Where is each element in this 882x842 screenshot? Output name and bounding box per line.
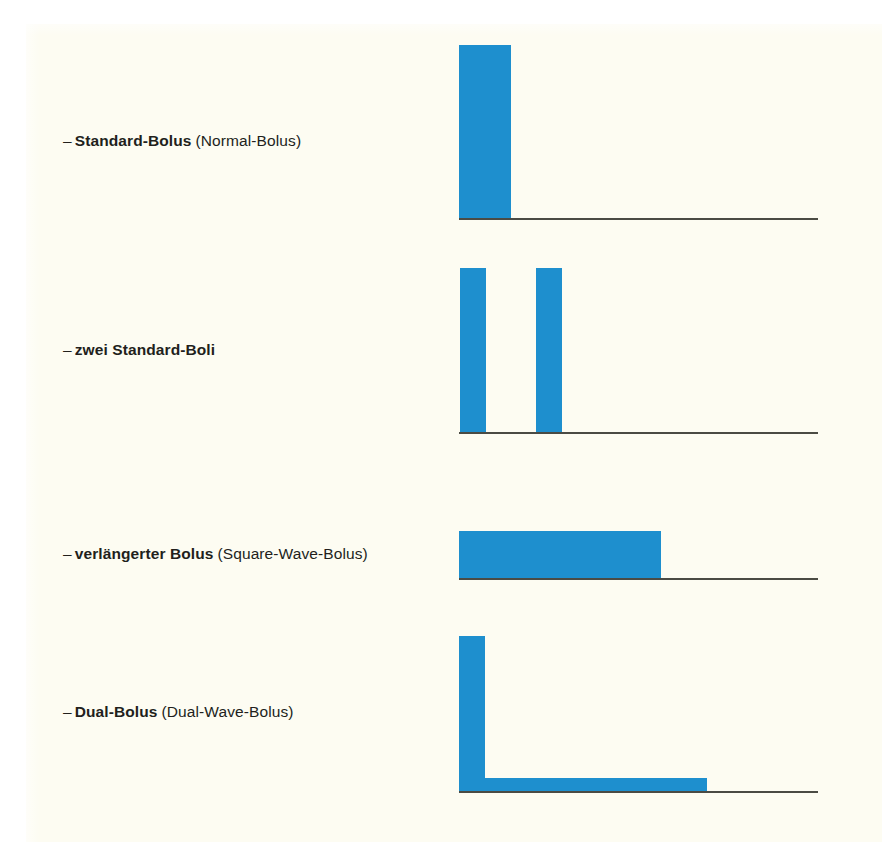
bar-dual-bolus-extended-tail [459, 778, 707, 791]
bar-verlaengerter-bolus-plateau [459, 531, 661, 578]
bar-standard-bolus-1 [459, 45, 511, 218]
diagram-row-standard-bolus: –Standard-Bolus(Normal-Bolus) [0, 0, 882, 236]
diagram-row-dual-bolus: –Dual-Bolus(Dual-Wave-Bolus) [0, 596, 882, 842]
diagram-row-verlaengerter-bolus: –verlängerter Bolus(Square-Wave-Bolus) [0, 450, 882, 596]
chart-baseline-axis [459, 578, 818, 580]
chart-baseline-axis [459, 218, 818, 220]
figure-page: –Standard-Bolus(Normal-Bolus) –zwei Stan… [0, 0, 882, 842]
bar-zwei-standard-boli-2 [536, 268, 562, 432]
diagram-row-zwei-standard-boli: –zwei Standard-Boli [0, 236, 882, 450]
bar-dual-bolus-immediate-spike [459, 636, 485, 791]
chart-dual-bolus [0, 596, 882, 842]
bar-zwei-standard-boli-1 [460, 268, 486, 432]
chart-standard-bolus [0, 0, 882, 236]
chart-zwei-standard-boli [0, 236, 882, 450]
chart-baseline-axis [459, 432, 818, 434]
chart-baseline-axis [459, 791, 818, 793]
chart-verlaengerter-bolus [0, 450, 882, 596]
